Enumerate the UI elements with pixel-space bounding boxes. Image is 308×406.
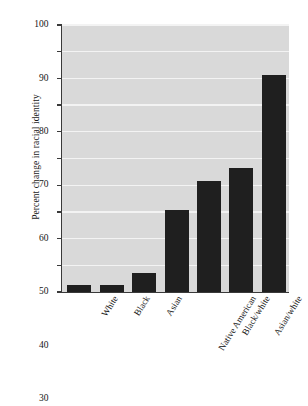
bar-series: [62, 25, 289, 292]
y-axis-tick: 90: [57, 51, 62, 52]
y-axis-tick: 40: [57, 185, 62, 186]
y-axis-tick-label: 60: [39, 233, 49, 243]
x-axis-labels: WhiteBlackAsianNative AmericanBlack/whit…: [61, 294, 289, 406]
y-axis-tick: 100: [57, 24, 62, 25]
y-axis-tick: 60: [57, 131, 62, 132]
y-axis-tick: 70: [57, 104, 62, 105]
x-axis-category-label: Black: [132, 294, 152, 318]
y-axis-tick-label: 30: [39, 393, 49, 403]
x-axis-category-label: White: [100, 294, 121, 319]
bar: [229, 168, 253, 292]
x-axis-category-label: Asian/white: [272, 294, 304, 337]
y-axis-tick-label: 80: [39, 126, 49, 136]
bar: [132, 273, 156, 292]
y-axis-tick-label: 100: [34, 19, 48, 29]
y-axis-tick: 10: [57, 265, 62, 266]
y-axis-tick-label: 50: [39, 286, 49, 296]
x-axis-category-label: Asian: [164, 294, 184, 318]
y-axis-tick-label: 40: [39, 340, 49, 350]
y-axis-tick-label: 90: [39, 73, 49, 83]
bar-chart: Percent change in racial identity 010203…: [0, 0, 308, 406]
bar: [197, 181, 221, 292]
y-axis-tick: 80: [57, 78, 62, 79]
y-axis-tick: 20: [57, 238, 62, 239]
bar: [165, 210, 189, 292]
y-axis-tick-label: 70: [39, 179, 49, 189]
bar: [262, 75, 286, 292]
plot-area: 0102030405060708090100: [61, 25, 289, 292]
y-axis-tick: 50: [57, 158, 62, 159]
y-axis-tick: 30: [57, 211, 62, 212]
